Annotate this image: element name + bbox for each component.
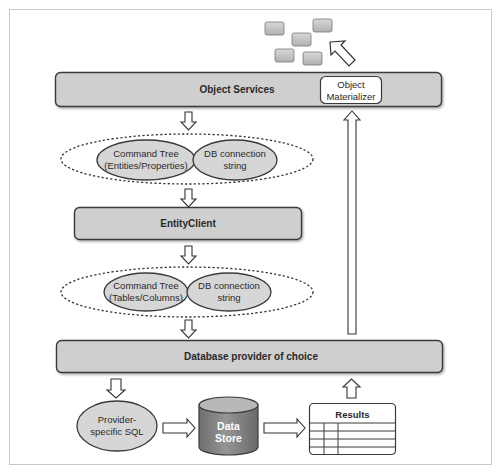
entity-framework-diagram: Object Services Object Materializer Comm… bbox=[0, 0, 498, 472]
provider-sql-line1: Provider- bbox=[98, 414, 137, 425]
object-materializer-line1: Object bbox=[337, 79, 365, 90]
provider-sql-line2: specific SQL bbox=[90, 426, 143, 437]
data-store-cylinder-icon: Data Store bbox=[199, 397, 258, 455]
command-tree-entities-line1: Command Tree bbox=[113, 148, 178, 159]
results-table: Results bbox=[310, 404, 396, 455]
command-tree-tables-line2: (Tables/Columns) bbox=[109, 292, 183, 303]
provider-specific-sql: Provider- specific SQL bbox=[77, 401, 157, 451]
entity-client-layer: EntityClient bbox=[75, 208, 302, 240]
command-tree-tables-line1: Command Tree bbox=[113, 280, 178, 291]
results-label: Results bbox=[335, 409, 369, 420]
object-services-label: Object Services bbox=[199, 84, 274, 95]
object-materializer-box: Object Materializer bbox=[321, 77, 382, 104]
data-store-line1: Data bbox=[217, 420, 240, 432]
db-connection-1-line2: string bbox=[223, 160, 246, 171]
database-provider-label: Database provider of choice bbox=[184, 351, 318, 362]
object-materializer-line2: Materializer bbox=[326, 91, 375, 102]
database-provider-layer: Database provider of choice bbox=[57, 341, 443, 373]
object-services-layer: Object Services bbox=[56, 73, 442, 107]
data-store-line2: Store bbox=[215, 432, 242, 444]
db-connection-1-line1: DB connection bbox=[204, 148, 266, 159]
db-connection-2-line2: string bbox=[217, 292, 240, 303]
db-connection-2-line1: DB connection bbox=[198, 280, 260, 291]
command-tree-entities-line2: (Entities/Properties) bbox=[104, 160, 187, 171]
entity-client-label: EntityClient bbox=[160, 218, 216, 229]
